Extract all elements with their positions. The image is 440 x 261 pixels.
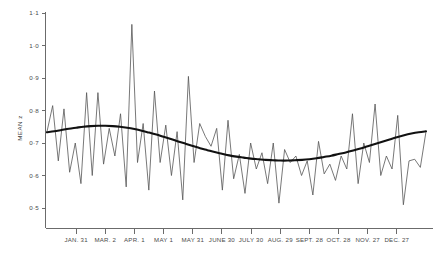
x-axis-tick-label: MAY 31 (181, 236, 204, 243)
x-axis-tick-label: SEPT. 28 (296, 236, 324, 243)
x-axis-tick-label: OCT. 28 (326, 236, 350, 243)
y-axis-ticks (42, 13, 46, 208)
chart-plot-area: 1·11·00·90·80·70·60·5 JAN. 31MAR. 2APR. … (0, 0, 440, 261)
y-axis-tick-label: 0·8 (29, 107, 39, 114)
y-axis-tick-label: 0·7 (29, 139, 39, 146)
y-axis-tick-label: 0·9 (29, 74, 39, 81)
chart-figure: 1·11·00·90·80·70·60·5 JAN. 31MAR. 2APR. … (0, 0, 440, 261)
y-axis-tick-label: 0·6 (29, 172, 39, 179)
x-axis-tick-label: DEC. 27 (384, 236, 409, 243)
data-series-weekly-mean-z (47, 24, 426, 204)
y-axis-tick-label: 1·0 (29, 42, 39, 49)
x-axis-tick-label: MAR. 2 (94, 236, 116, 243)
data-series-fitted-trend (47, 126, 426, 161)
y-axis-tick-label: 1·1 (29, 9, 39, 16)
x-axis-tick-label: MAY 1 (154, 236, 173, 243)
x-axis-tick-labels: JAN. 31MAR. 2APR. 1MAY 1MAY 31JUNE 30JUL… (64, 236, 409, 243)
x-axis-tick-label: JAN. 31 (64, 236, 88, 243)
x-axis-ticks (76, 229, 397, 234)
x-axis-tick-label: AUG. 29 (268, 236, 293, 243)
x-axis-tick-label: NOV. 27 (355, 236, 380, 243)
y-axis-title: MEAN z (16, 115, 23, 141)
x-axis-tick-label: JUNE 30 (209, 236, 235, 243)
x-axis-tick-label: JULY 30 (239, 236, 264, 243)
x-axis-tick-label: APR. 1 (124, 236, 145, 243)
y-axis-tick-label: 0·5 (29, 204, 39, 211)
y-axis-tick-labels: 1·11·00·90·80·70·60·5 (29, 9, 39, 211)
